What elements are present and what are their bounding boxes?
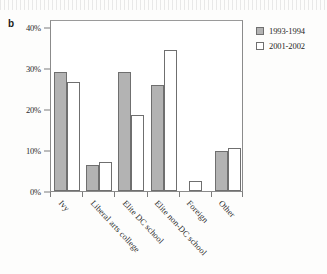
y-tick-label: 40% [26,23,41,33]
x-axis-labels: IvyLiberal arts collegeElite DC schoolEl… [0,192,327,274]
x-tick-label: Other [217,198,238,219]
bars-layer [51,21,242,191]
bar [118,72,131,191]
y-axis: 0%10%20%30%40% [0,0,50,212]
legend-item: 2001-2002 [256,41,326,51]
bar [67,82,80,191]
bar [99,162,112,191]
x-tick-label: Foreign [185,198,211,225]
bar-group [83,21,115,191]
bar [164,50,177,191]
bar [228,148,241,191]
plot-area [50,20,243,192]
bar-group [51,21,83,191]
y-tick-label: 10% [26,146,41,156]
legend-swatch-icon [256,42,264,50]
bar-group [180,21,212,191]
bar-group [148,21,180,191]
legend-label: 2001-2002 [269,41,305,51]
bar-group [115,21,147,191]
legend-item: 1993-1994 [256,26,326,36]
bar [131,115,144,191]
bar [86,165,99,191]
y-tick-label: 20% [26,105,41,115]
legend-label: 1993-1994 [269,26,305,36]
legend-swatch-icon [256,27,264,35]
bar-group [212,21,244,191]
x-tick-label: Ivy [56,198,71,213]
y-tick-label: 30% [26,64,41,74]
bar [189,181,202,191]
legend: 1993-19942001-2002 [256,26,326,56]
bar [215,151,228,191]
bar [54,72,67,191]
bar [151,85,164,191]
